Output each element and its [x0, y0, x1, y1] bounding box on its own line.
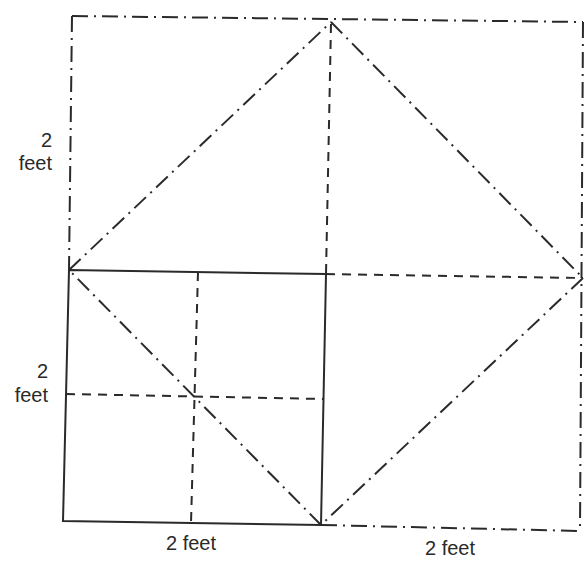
square-diagram: 2 feet 2 feet 2 feet 2 feet: [0, 0, 587, 576]
outer-right-edge: [580, 22, 583, 531]
diag-edge-top-right: [331, 22, 583, 278]
label-left-upper-unit: feet: [19, 152, 53, 174]
label-bottom-right: 2 feet: [425, 537, 475, 559]
diag-edge-right-bottom: [321, 278, 583, 525]
dashed-horizontal-right-middle: [326, 274, 583, 278]
original-square: [63, 270, 326, 525]
dashed-vertical-top-center: [326, 24, 331, 274]
label-left-lower-unit: feet: [15, 384, 49, 406]
diag-edge-left-top: [69, 22, 331, 270]
outer-left-edge-top: [69, 16, 72, 270]
outer-bottom-edge-right: [321, 525, 580, 531]
label-left-upper-number: 2: [41, 129, 52, 151]
outer-top-edge: [72, 16, 583, 22]
dashed-horizontal-small-square: [66, 394, 324, 399]
label-bottom-left: 2 feet: [166, 532, 216, 554]
label-left-lower-number: 2: [37, 360, 48, 382]
